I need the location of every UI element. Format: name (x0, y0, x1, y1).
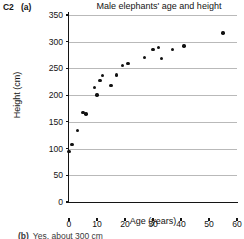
answer-line: (b)Yes, about 300 cm (18, 231, 103, 239)
gridline-horizontal (69, 175, 237, 176)
answer-part-label: (b) (18, 231, 29, 239)
data-point (109, 84, 112, 87)
data-point (157, 46, 160, 49)
y-axis-tick-label: 200 (29, 90, 63, 100)
data-point (93, 86, 96, 89)
chart-title: Male elephants' age and height (76, 1, 242, 11)
y-axis-tick-label: 250 (29, 63, 63, 73)
data-point (70, 143, 73, 146)
y-axis-tick-mark (66, 175, 69, 176)
y-axis-tick-mark (66, 148, 69, 149)
gridline-horizontal (69, 15, 237, 16)
y-axis-tick-mark (66, 41, 69, 42)
data-point (160, 57, 163, 60)
data-point (151, 48, 154, 51)
y-axis-tick-label: 300 (29, 37, 63, 47)
data-point (95, 93, 98, 96)
y-axis-tick-label: 350 (29, 10, 63, 20)
data-point (115, 73, 118, 76)
data-point (84, 112, 87, 115)
data-point (182, 44, 185, 47)
y-axis-tick-label: 150 (29, 117, 63, 127)
data-point (126, 62, 129, 65)
answer-text: Yes, about 300 cm (33, 231, 103, 239)
y-axis-tick-label: 50 (29, 170, 63, 180)
data-point (221, 31, 224, 34)
gridline-horizontal (69, 122, 237, 123)
y-axis-title: Height (cm) (12, 50, 22, 140)
plot-area: 0501001502002503003500102030405060 (69, 15, 237, 202)
y-axis-tick-mark (66, 95, 69, 96)
gridline-horizontal (69, 42, 237, 43)
data-point (121, 64, 124, 67)
gridline-horizontal (69, 149, 237, 150)
x-axis-title: Age (years) (69, 216, 237, 226)
y-axis-tick-mark (66, 68, 69, 69)
y-axis-tick-label: 0 (29, 197, 63, 207)
y-axis-tick-label: 100 (29, 144, 63, 154)
data-point (143, 56, 146, 59)
gridline-horizontal (69, 68, 237, 69)
y-axis-tick-mark (66, 121, 69, 122)
data-point (76, 129, 79, 132)
y-axis-tick-mark (66, 201, 69, 202)
data-point (98, 79, 101, 82)
data-point (67, 150, 70, 153)
gridline-horizontal (69, 95, 237, 96)
data-point (101, 74, 104, 77)
chart-page: C2 (a) Male elephants' age and height 05… (0, 0, 244, 239)
data-point (171, 48, 174, 51)
question-number: C2 (3, 2, 13, 12)
y-axis-tick-mark (66, 14, 69, 15)
